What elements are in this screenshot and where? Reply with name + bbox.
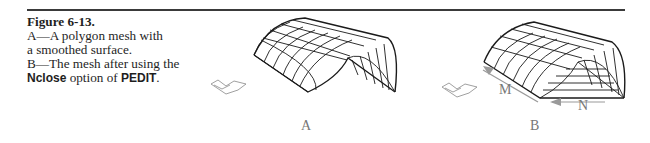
ucs-icon-b	[442, 83, 477, 97]
panel-label-b: B	[530, 118, 539, 134]
arrow-label-m: M	[499, 82, 511, 98]
figure-drawings	[0, 0, 650, 143]
mesh-a-icon	[254, 18, 396, 92]
panel-label-a: A	[301, 118, 311, 134]
arrow-label-n: N	[578, 98, 588, 114]
ucs-icon-a	[211, 80, 246, 94]
